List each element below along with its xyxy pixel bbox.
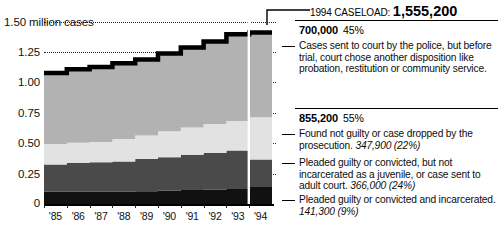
item-3-text: Pleaded guilty or convicted and incarcer… xyxy=(299,194,496,205)
leader-line-item-3 xyxy=(282,200,295,201)
item-3: Pleaded guilty or convicted and incarcer… xyxy=(299,194,497,217)
x-tick-mark xyxy=(44,205,45,208)
x-tick-mark xyxy=(204,205,205,208)
x-tick-label: '88 xyxy=(117,211,130,222)
y-tick-0-25: 0.25 xyxy=(18,169,40,181)
x-tick-mark xyxy=(181,205,182,208)
year-1994-separator xyxy=(248,22,250,204)
y-tick-0-75: 0.75 xyxy=(18,108,40,120)
x-tick-label: '91 xyxy=(186,211,199,222)
stacked-bands xyxy=(44,22,272,204)
caseload-heading: 1994 CASELOAD: 1,555,200 xyxy=(310,5,457,19)
leader-line-group-1 xyxy=(282,46,295,47)
item-1-number: 347,900 xyxy=(355,140,391,151)
x-tick-label: '92 xyxy=(208,211,221,222)
x-tick-label: '89 xyxy=(140,211,153,222)
chart-infographic: 1.50 million cases 1.25 1.00 0.75 0.50 0… xyxy=(0,0,498,238)
x-tick-mark xyxy=(112,205,113,208)
x-tick-label: '90 xyxy=(163,211,176,222)
caseload-value: 1,555,200 xyxy=(393,3,458,19)
x-tick-label: '86 xyxy=(72,211,85,222)
caseload-bracket xyxy=(266,4,314,26)
x-tick-label: '93 xyxy=(231,211,244,222)
y-tick-0: 0 xyxy=(34,198,40,210)
group-1-percent: 45% xyxy=(343,24,364,36)
divider-middle xyxy=(295,108,498,109)
item-2-percent: (24%) xyxy=(389,180,415,191)
item-2: Pleaded guilty or convicted, but not inc… xyxy=(299,157,497,192)
x-tick-mark xyxy=(226,205,227,208)
y-tick-1-00: 1.00 xyxy=(18,77,40,89)
group-2-amount-row: 855,20055% xyxy=(299,113,364,124)
item-1-percent: (22%) xyxy=(394,140,420,151)
x-tick-mark xyxy=(90,205,91,208)
divider-top xyxy=(295,20,498,21)
group-1-amount: 700,000 xyxy=(299,24,338,36)
x-tick-mark xyxy=(67,205,68,208)
group-1-description: Cases sent to court by the police, but b… xyxy=(299,40,497,75)
callout-panel: 1994 CASELOAD: 1,555,200 700,00045% Case… xyxy=(282,0,498,238)
y-tick-1-25: 1.25 xyxy=(18,47,40,59)
y-tick-0-50: 0.50 xyxy=(18,138,40,150)
caseload-label: 1994 CASELOAD: xyxy=(310,7,390,18)
group-1-amount-row: 700,00045% xyxy=(299,25,364,36)
x-tick-label: '94 xyxy=(254,211,267,222)
item-3-percent: (9%) xyxy=(337,206,358,217)
group-2-amount: 855,200 xyxy=(299,112,338,124)
y-axis-ticks: 1.25 1.00 0.75 0.50 0.25 0 xyxy=(0,0,40,238)
x-tick-mark xyxy=(158,205,159,208)
item-1: Found not guilty or case dropped by the … xyxy=(299,128,497,151)
leader-line-item-2 xyxy=(282,163,295,164)
x-tick-mark xyxy=(249,205,250,208)
item-3-number: 141,300 xyxy=(299,206,335,217)
x-tick-label: '85 xyxy=(49,211,62,222)
leader-line-item-1 xyxy=(282,134,295,135)
plot-area xyxy=(44,22,272,204)
x-tick-label: '87 xyxy=(94,211,107,222)
x-axis: '85'86'87'88'89'90'91'92'93'94 xyxy=(44,205,276,235)
item-2-number: 366,000 xyxy=(350,180,386,191)
stacked-area-chart: 1.50 million cases 1.25 1.00 0.75 0.50 0… xyxy=(0,0,282,238)
x-tick-mark xyxy=(135,205,136,208)
group-2-percent: 55% xyxy=(343,112,364,124)
